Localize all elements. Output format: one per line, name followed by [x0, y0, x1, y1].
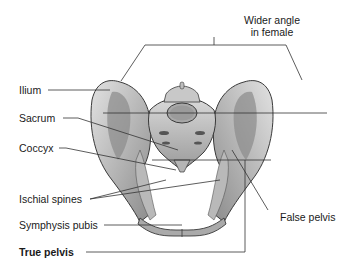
- pubic-arch: [138, 218, 226, 237]
- left-ilium: [91, 81, 156, 222]
- label-wider-angle-line2: in female: [222, 26, 322, 38]
- label-wider-angle-line1: Wider angle: [222, 14, 322, 26]
- label-true-pelvis: True pelvis: [19, 246, 74, 258]
- label-wider-angle: Wider angle in female: [222, 14, 322, 38]
- label-coccyx: Coccyx: [19, 142, 53, 154]
- right-ilium: [208, 81, 273, 222]
- sacrum: [148, 82, 215, 170]
- label-ilium: Ilium: [19, 84, 41, 96]
- label-symphysis-pubis: Symphysis pubis: [19, 219, 98, 231]
- label-false-pelvis: False pelvis: [280, 211, 335, 223]
- pelvis-illustration: [0, 0, 364, 275]
- label-ischial-spines: Ischial spines: [19, 193, 82, 205]
- label-sacrum: Sacrum: [19, 112, 55, 124]
